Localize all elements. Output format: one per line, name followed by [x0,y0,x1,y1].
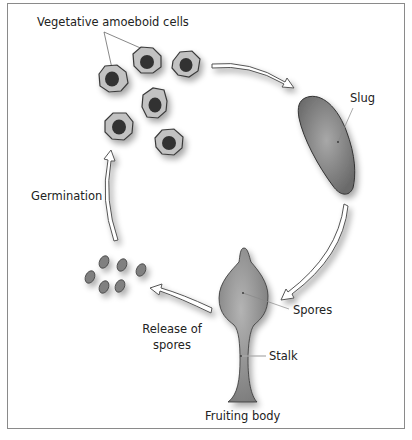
label-spores: Spores [293,303,332,317]
nucleus [180,58,193,72]
label-slug: Slug [350,91,375,105]
label-vegetative-amoeboid-cells: Vegetative amoeboid cells [37,15,189,29]
label-stalk: Stalk [269,349,298,363]
nucleus [140,55,154,69]
amoeba-cell [105,113,133,140]
label-release-of-spores: Release of spores [142,322,202,352]
label-release-line2: spores [142,338,202,352]
label-fruiting-body: Fruiting body [205,409,280,423]
amoeba-cell [155,129,183,155]
label-germination: Germination [31,189,102,203]
nucleus [105,72,119,87]
dictyostelium-life-cycle-diagram [0,0,412,440]
nucleus [162,136,176,150]
amoeba-cell [142,88,167,118]
nucleus [112,120,126,135]
nucleus [149,98,162,113]
label-release-line1: Release of [142,322,202,336]
